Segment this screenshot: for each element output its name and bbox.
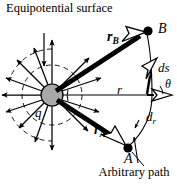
arc-length-element-label: ds <box>158 61 170 75</box>
angle-theta-label: θ <box>165 78 171 91</box>
point-b-dot <box>143 26 152 35</box>
arbitrary-path-leader <box>134 137 138 163</box>
vector-ds-arrowhead <box>142 58 157 79</box>
electric-field-potential-diagram: Equipotential surface Arbitrary path q B… <box>0 0 177 194</box>
vector-ds-shaft <box>147 76 150 94</box>
vector-ra-subscript: A <box>99 129 105 139</box>
arbitrary-path-caption-tick <box>132 152 144 166</box>
vector-ra-label: rA <box>94 121 106 140</box>
equipotential-surface-caption: Equipotential surface <box>6 2 100 15</box>
charge-label-q: q <box>35 106 42 120</box>
equipotential-arc-outer-2 <box>12 117 52 141</box>
radial-distance-label: r <box>117 83 122 97</box>
point-a-label: A <box>124 152 133 167</box>
vector-rb-subscript: B <box>112 36 118 46</box>
point-b-label: B <box>158 22 167 37</box>
radial-element-subscript: r <box>153 116 157 126</box>
radial-element-label: dr <box>146 108 156 126</box>
vector-rb-label: rB <box>107 28 119 47</box>
vector-rb-shaft <box>56 36 140 91</box>
arbitrary-path-direction-arrow-lower <box>135 120 139 128</box>
arbitrary-path-caption: Arbitrary path <box>94 166 174 179</box>
